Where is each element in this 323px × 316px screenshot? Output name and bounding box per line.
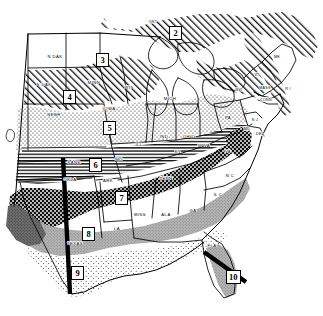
state-label-pa: PA [225, 115, 231, 120]
state-label-w-va: W VA [198, 143, 210, 148]
state-label-del: DEL [256, 132, 264, 136]
zone-map-graphic [0, 0, 323, 316]
state-label-ind: IND [160, 134, 169, 139]
state-label-r-i: R I [285, 87, 291, 91]
zone-box-9[interactable]: 9 [71, 266, 84, 280]
state-label-minn: MINN [88, 80, 101, 85]
state-label-n-c: N C [226, 173, 235, 178]
state-label-s-c: S C [214, 192, 222, 197]
state-label-ill: ILL [135, 142, 142, 147]
state-label-vt: VT [254, 73, 259, 77]
state-label-me: ME [274, 55, 280, 59]
state-label-miss: MISS [134, 212, 146, 217]
state-label-ky: KY [175, 149, 182, 154]
zone-box-10[interactable]: 10 [226, 270, 241, 284]
state-label-iowa: IOWA [103, 106, 116, 111]
state-label-la: LA [114, 226, 120, 231]
state-label-ohio: OHIO [183, 134, 196, 139]
state-label-n-j: N J [252, 118, 258, 122]
state-label-va: VA [225, 149, 231, 154]
state-label-conn: CONN [260, 98, 272, 102]
state-label-kans: KANS [67, 160, 80, 165]
zone-box-5[interactable]: 5 [103, 121, 116, 135]
state-label-mass: MASS [259, 86, 270, 90]
map-container: N DAK S DAK NEBR MINN WIS IOWA MICH ILL … [0, 0, 323, 316]
state-label-fla: FLA [207, 243, 216, 248]
zone-box-8[interactable]: 8 [82, 227, 95, 241]
state-label-s-dak: S DAK [37, 82, 52, 87]
zone-box-6[interactable]: 6 [89, 158, 102, 172]
state-label-ga: GA [190, 208, 197, 213]
state-label-ark: ARK [103, 178, 113, 183]
zone-box-4[interactable]: 4 [63, 90, 76, 104]
state-label-texas: TEXAS [67, 241, 83, 246]
zone-box-3[interactable]: 3 [96, 53, 109, 67]
state-label-ala: ALA [161, 212, 170, 217]
state-label-okla: OKLA [64, 177, 77, 182]
state-label-md: MD [244, 127, 250, 131]
state-label-wis: WIS [124, 85, 133, 90]
state-label-tenn: TENN [159, 176, 172, 181]
state-label-mo: MO [115, 157, 123, 162]
state-label-nebr: NEBR [47, 112, 60, 117]
state-label-n-y: N Y [236, 88, 243, 92]
state-label-mich: MICH [164, 96, 177, 101]
state-label-ont: ONT [149, 20, 158, 24]
zone-box-7[interactable]: 7 [115, 191, 128, 205]
zone-box-2[interactable]: 2 [169, 26, 182, 40]
state-label-n-dak: N DAK [47, 54, 62, 59]
